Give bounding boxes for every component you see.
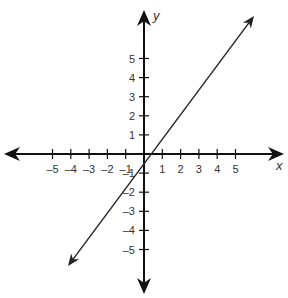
line-end-arrow-icon bbox=[243, 16, 254, 29]
x-tick-label: 2 bbox=[178, 163, 184, 175]
plotted-line bbox=[68, 16, 254, 266]
x-tick-label: –5 bbox=[46, 163, 58, 175]
x-tick-label: 3 bbox=[196, 163, 202, 175]
x-tick-label: –4 bbox=[65, 163, 77, 175]
y-tick-label: –4 bbox=[123, 224, 135, 236]
y-tick-label: 3 bbox=[129, 91, 135, 103]
y-tick-label: 5 bbox=[129, 53, 135, 65]
y-tick-label: 1 bbox=[129, 129, 135, 141]
x-tick-label: 5 bbox=[232, 163, 238, 175]
y-tick-label: 2 bbox=[129, 110, 135, 122]
x-tick-label: 1 bbox=[159, 163, 165, 175]
axes bbox=[4, 10, 284, 294]
x-tick-label: 4 bbox=[214, 163, 220, 175]
x-tick-label: –3 bbox=[83, 163, 95, 175]
coordinate-plane: –5–4–3–2–112345–5–4–3–2–112345 x y bbox=[0, 0, 288, 298]
x-axis-label: x bbox=[275, 158, 283, 173]
x-tick-label: –2 bbox=[101, 163, 113, 175]
y-tick-label: 4 bbox=[129, 72, 135, 84]
y-tick-label: –5 bbox=[123, 244, 135, 256]
y-tick-label: –3 bbox=[123, 205, 135, 217]
line-start-arrow-icon bbox=[68, 253, 79, 266]
y-axis-label: y bbox=[152, 8, 161, 23]
y-tick-label: –2 bbox=[123, 186, 135, 198]
graphed-line bbox=[73, 22, 249, 259]
